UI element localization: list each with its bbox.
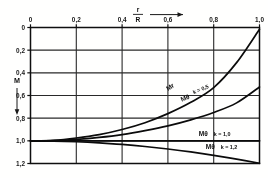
chart-figure: 00,20,40,60,81,0 00,20,40,60,81,01,2 MrM… — [0, 0, 268, 178]
curve-label-M-theta-k10: Mθ — [199, 130, 208, 137]
y-tick-label: 1,0 — [16, 137, 25, 145]
curve-k-value-M-theta-k10: k = 1,0 — [214, 131, 231, 137]
y-tick-label: 1,2 — [16, 160, 25, 168]
y-axis-label: M — [14, 76, 20, 85]
y-tick-label: 0,2 — [16, 47, 25, 55]
x-axis-numerator: r — [137, 6, 140, 13]
x-tick-label: 0,8 — [209, 16, 218, 24]
x-tick-label: 0,4 — [118, 16, 127, 24]
x-tick-label: 0,6 — [163, 16, 172, 24]
chart-background — [0, 0, 268, 178]
chart-canvas: 00,20,40,60,81,0 00,20,40,60,81,01,2 MrM… — [0, 0, 268, 178]
y-tick-label: 0,6 — [16, 92, 25, 100]
y-tick-label: 0,8 — [16, 115, 25, 123]
curve-k-value-M-theta-k12: k = 1,2 — [221, 144, 238, 150]
curve-label-group-M-theta-k10: Mθk = 1,0 — [199, 130, 231, 137]
y-tick-label: 0 — [21, 24, 25, 31]
x-axis-denominator: R — [136, 16, 141, 23]
x-tick-label: 0 — [29, 16, 33, 23]
x-tick-label: 0,2 — [72, 16, 81, 24]
x-tick-label: 1,0 — [255, 16, 264, 24]
curve-label-group-M-theta-k12: Mθk = 1,2 — [206, 143, 238, 150]
curve-label-M-theta-k12: Mθ — [206, 143, 215, 150]
